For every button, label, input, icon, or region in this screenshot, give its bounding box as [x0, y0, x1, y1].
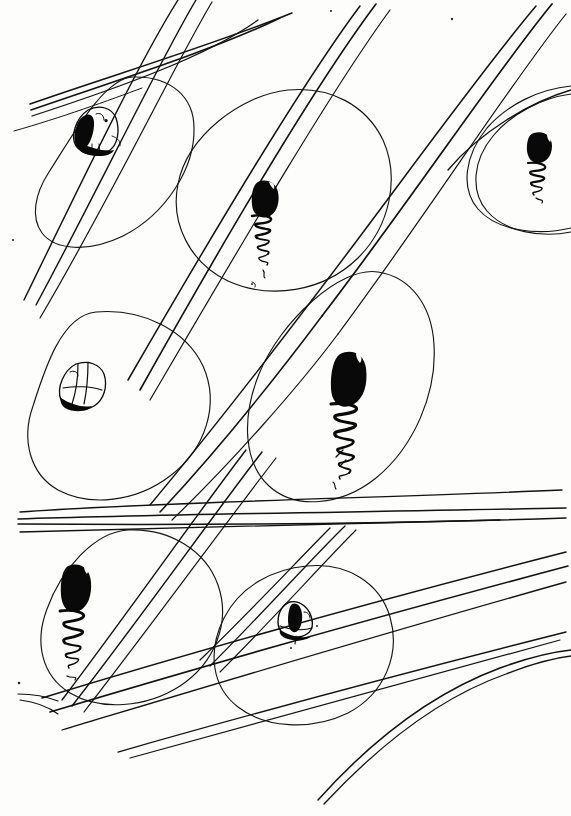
ink-drawing-canvas: Pen and ink drawing Hand-drawn network o… [0, 0, 571, 816]
drawing-surface [0, 0, 571, 816]
